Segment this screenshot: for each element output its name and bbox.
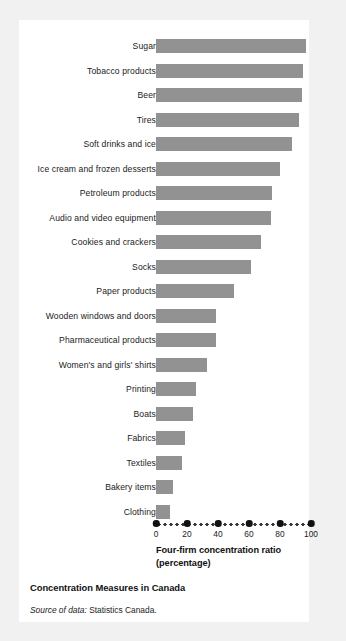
bar-category-label: Cookies and crackers — [71, 237, 156, 247]
bar-row: Tobacco products — [19, 59, 309, 84]
x-axis-title-line1: Four-firm concentration ratio — [156, 544, 331, 557]
axis-tick-dot — [277, 520, 284, 527]
bar — [156, 64, 303, 78]
bar-category-label: Clothing — [124, 507, 156, 517]
bar-row: Boats — [19, 402, 309, 427]
bar — [156, 480, 173, 494]
bar-track — [156, 333, 311, 347]
bar — [156, 284, 234, 298]
bar-row: Paper products — [19, 279, 309, 304]
bar-category-label: Tires — [137, 115, 156, 125]
bar-track — [156, 407, 311, 421]
source-label: Source of data: — [30, 605, 87, 615]
bar-row: Audio and video equipment — [19, 206, 309, 231]
axis-dotted-line — [156, 523, 311, 526]
bar-category-label: Tobacco products — [87, 66, 156, 76]
bar — [156, 309, 216, 323]
bar-track — [156, 431, 311, 445]
figure-root: SugarTobacco productsBeerTiresSoft drink… — [0, 0, 346, 641]
axis-tick-dot — [246, 520, 253, 527]
bar-track — [156, 456, 311, 470]
bar — [156, 137, 292, 151]
bar-row: Sugar — [19, 34, 309, 59]
bar-track — [156, 162, 311, 176]
axis-tick-dot — [215, 520, 222, 527]
bar — [156, 235, 261, 249]
bar-track — [156, 505, 311, 519]
bar-category-label: Textiles — [127, 458, 156, 468]
x-axis-ticks — [156, 520, 311, 529]
bar-category-label: Ice cream and frozen desserts — [38, 164, 157, 174]
bar — [156, 505, 170, 519]
bar — [156, 260, 251, 274]
x-axis-title: Four-firm concentration ratio (percentag… — [156, 544, 331, 569]
bar-row: Cookies and crackers — [19, 230, 309, 255]
bar-row: Wooden windows and doors — [19, 304, 309, 329]
bar-track — [156, 64, 311, 78]
bar-track — [156, 39, 311, 53]
axis-tick-dot — [308, 520, 315, 527]
bar-track — [156, 382, 311, 396]
bar-track — [156, 235, 311, 249]
bar-row: Pharmaceutical products — [19, 328, 309, 353]
bar-category-label: Socks — [132, 262, 156, 272]
bar-category-label: Paper products — [96, 286, 156, 296]
axis-tick-label: 60 — [244, 529, 253, 539]
bar-category-label: Printing — [126, 384, 156, 394]
figure-title: Concentration Measures in Canada — [30, 582, 185, 593]
bar-row: Soft drinks and ice — [19, 132, 309, 157]
bar-category-label: Wooden windows and doors — [46, 311, 156, 321]
bar-row: Beer — [19, 83, 309, 108]
figure-source-note: Source of data: Statistics Canada. — [30, 605, 157, 615]
bar-row: Ice cream and frozen desserts — [19, 157, 309, 182]
bar-category-label: Bakery items — [105, 482, 156, 492]
bar-category-label: Soft drinks and ice — [83, 139, 156, 149]
bar-track — [156, 186, 311, 200]
bar — [156, 113, 299, 127]
bar-track — [156, 480, 311, 494]
bar-category-label: Women's and girls' shirts — [59, 360, 156, 370]
bar-category-label: Boats — [134, 409, 156, 419]
bar-track — [156, 358, 311, 372]
bar-category-label: Beer — [137, 90, 156, 100]
bar-track — [156, 137, 311, 151]
bar-track — [156, 88, 311, 102]
bar — [156, 186, 272, 200]
bar-row: Printing — [19, 377, 309, 402]
bar-track — [156, 211, 311, 225]
axis-tick-dot — [153, 520, 160, 527]
bar — [156, 88, 302, 102]
axis-tick-label: 20 — [182, 529, 191, 539]
bar — [156, 358, 207, 372]
bar-category-label: Petroleum products — [80, 188, 156, 198]
bar-track — [156, 113, 311, 127]
bar — [156, 162, 280, 176]
bar — [156, 333, 216, 347]
bar-track — [156, 260, 311, 274]
bar-category-label: Fabrics — [127, 433, 156, 443]
bar-row: Tires — [19, 108, 309, 133]
axis-tick-label: 0 — [154, 529, 159, 539]
bar — [156, 39, 306, 53]
bar — [156, 456, 182, 470]
bar-category-label: Audio and video equipment — [49, 213, 156, 223]
bar-row: Bakery items — [19, 475, 309, 500]
source-value: Statistics Canada. — [89, 605, 157, 615]
axis-tick-label: 80 — [275, 529, 284, 539]
axis-tick-label: 100 — [304, 529, 318, 539]
bar — [156, 211, 271, 225]
bar-chart: SugarTobacco productsBeerTiresSoft drink… — [19, 34, 309, 514]
bar — [156, 407, 193, 421]
axis-tick-label: 40 — [213, 529, 222, 539]
bar — [156, 431, 185, 445]
bar — [156, 382, 196, 396]
bar-row: Women's and girls' shirts — [19, 353, 309, 378]
bar-category-label: Sugar — [133, 41, 156, 51]
x-axis-title-line2: (percentage) — [156, 557, 331, 570]
bar-row: Textiles — [19, 451, 309, 476]
bar-row: Petroleum products — [19, 181, 309, 206]
bar-track — [156, 309, 311, 323]
bar-row: Socks — [19, 255, 309, 280]
bar-row: Fabrics — [19, 426, 309, 451]
axis-tick-dot — [184, 520, 191, 527]
